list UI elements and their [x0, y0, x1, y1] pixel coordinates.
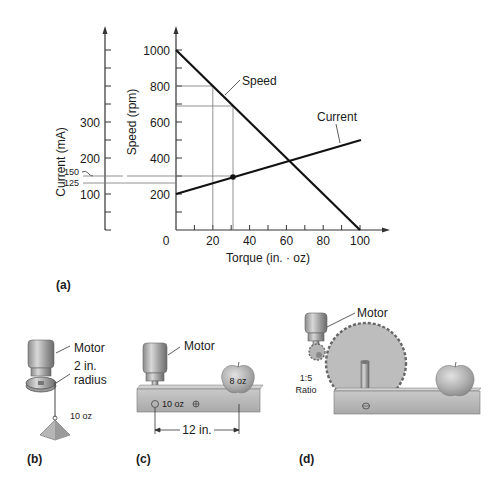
- speed-tick-600: 600: [150, 116, 170, 130]
- speed-axis-label: Speed (rpm): [125, 89, 139, 156]
- current-line: [176, 140, 361, 194]
- speed-tick-400: 400: [150, 152, 170, 166]
- current-axis: 300 200 100 150 125 Current (mA): [54, 26, 111, 230]
- panel-b-hanging-weight: Motor 2 in. radius 10 oz: [26, 340, 107, 440]
- motor-c: [143, 343, 167, 389]
- current-callout-leader: [336, 124, 340, 143]
- torque-tick-100: 100: [350, 234, 370, 248]
- panel-c-distance-label: 12 in.: [182, 423, 211, 437]
- torque-tick-20: 20: [206, 234, 220, 248]
- current-axis-label: Current (mA): [54, 127, 68, 196]
- panel-label-b: (b): [27, 452, 42, 466]
- panel-d-geared: Motor 1:5 Ratio: [295, 306, 481, 414]
- torque-axis: 0 20 40 60 80 100 Torque (in. · oz): [163, 225, 390, 265]
- panel-label-c: (c): [136, 452, 151, 466]
- panel-b-radius-line1: 2 in.: [74, 359, 97, 373]
- torque-tick-0: 0: [163, 234, 170, 248]
- figure-canvas: 300 200 100 150 125 Current (mA): [0, 0, 502, 487]
- speed-callout-label: Speed: [242, 74, 277, 88]
- torque-axis-label: Torque (in. · oz): [226, 251, 310, 265]
- panel-b-weight-label: 10 oz: [70, 411, 93, 421]
- torque-tick-60: 60: [280, 234, 294, 248]
- current-tick-200: 200: [80, 152, 100, 166]
- small-gear: [309, 344, 325, 360]
- apple-d: [436, 362, 474, 396]
- speed-callout-leader: [225, 80, 240, 95]
- hanging-weight: [40, 416, 70, 440]
- speed-axis: 1000 800 600 400 200 Speed (rpm): [125, 26, 182, 230]
- panel-label-a: (a): [56, 278, 71, 292]
- panel-c-apple-weight: 8 oz: [229, 376, 247, 386]
- current-tick-100: 100: [80, 188, 100, 202]
- panel-b-radius-line2: radius: [74, 373, 107, 387]
- annotation-150-leader: [82, 171, 93, 176]
- panel-d-motor-label: Motor: [357, 306, 388, 320]
- current-tick-300: 300: [80, 116, 100, 130]
- motor-d: [305, 313, 327, 347]
- speed-tick-1000: 1000: [143, 44, 170, 58]
- current-callout-label: Current: [317, 110, 358, 124]
- panel-label-d: (d): [299, 452, 314, 466]
- torque-tick-80: 80: [317, 234, 331, 248]
- torque-speed-current-chart: 300 200 100 150 125 Current (mA): [54, 26, 390, 265]
- panel-d-ratio-line2: Ratio: [295, 385, 316, 395]
- panel-c-base-weight: 10 oz: [162, 399, 185, 409]
- panel-d-ratio-line1: 1:5: [300, 373, 313, 383]
- panel-b-motor-label: Motor: [74, 341, 105, 355]
- panel-c-motor-label: Motor: [184, 339, 215, 353]
- panel-c-lever: 10 oz 8 oz Motor 12 in.: [137, 339, 263, 437]
- motor-b: [26, 340, 56, 392]
- speed-tick-800: 800: [150, 80, 170, 94]
- speed-tick-200: 200: [150, 188, 170, 202]
- operating-point-marker: [230, 174, 236, 180]
- torque-tick-40: 40: [243, 234, 257, 248]
